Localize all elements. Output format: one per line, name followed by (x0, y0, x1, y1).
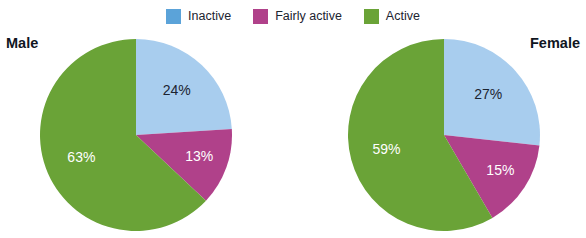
pie-slice-label-inactive: 27% (474, 86, 502, 102)
pie-slice-label-active: 63% (67, 149, 95, 165)
legend-swatch-inactive-icon (166, 9, 181, 24)
pie-panel-female: Female 27%15%59% (293, 28, 586, 238)
legend-item-fairly-active[interactable]: Fairly active (253, 9, 342, 24)
pie-panel-male: Male 24%13%63% (0, 28, 293, 238)
legend-item-inactive[interactable]: Inactive (166, 9, 231, 24)
pie-svg-male: 24%13%63% (39, 38, 233, 232)
chart-legend: Inactive Fairly active Active (0, 5, 586, 27)
pie-svg-female: 27%15%59% (347, 38, 541, 232)
legend-swatch-active-icon (364, 9, 379, 24)
legend-label-fairly-active: Fairly active (275, 10, 342, 23)
legend-label-active: Active (386, 10, 420, 23)
pie-chart-male: 24%13%63% (39, 38, 233, 232)
pie-slice-label-fairly-active: 15% (486, 162, 514, 178)
pie-slice-label-inactive: 24% (163, 82, 191, 98)
pie-chart-figure: Inactive Fairly active Active Male 24%13… (0, 0, 586, 238)
panel-title-male: Male (6, 36, 38, 51)
pie-slice-label-fairly-active: 13% (185, 148, 213, 164)
pie-chart-female: 27%15%59% (347, 38, 541, 232)
legend-label-inactive: Inactive (188, 10, 231, 23)
pie-slice-label-active: 59% (373, 141, 401, 157)
legend-swatch-fairly-active-icon (253, 9, 268, 24)
legend-item-active[interactable]: Active (364, 9, 420, 24)
